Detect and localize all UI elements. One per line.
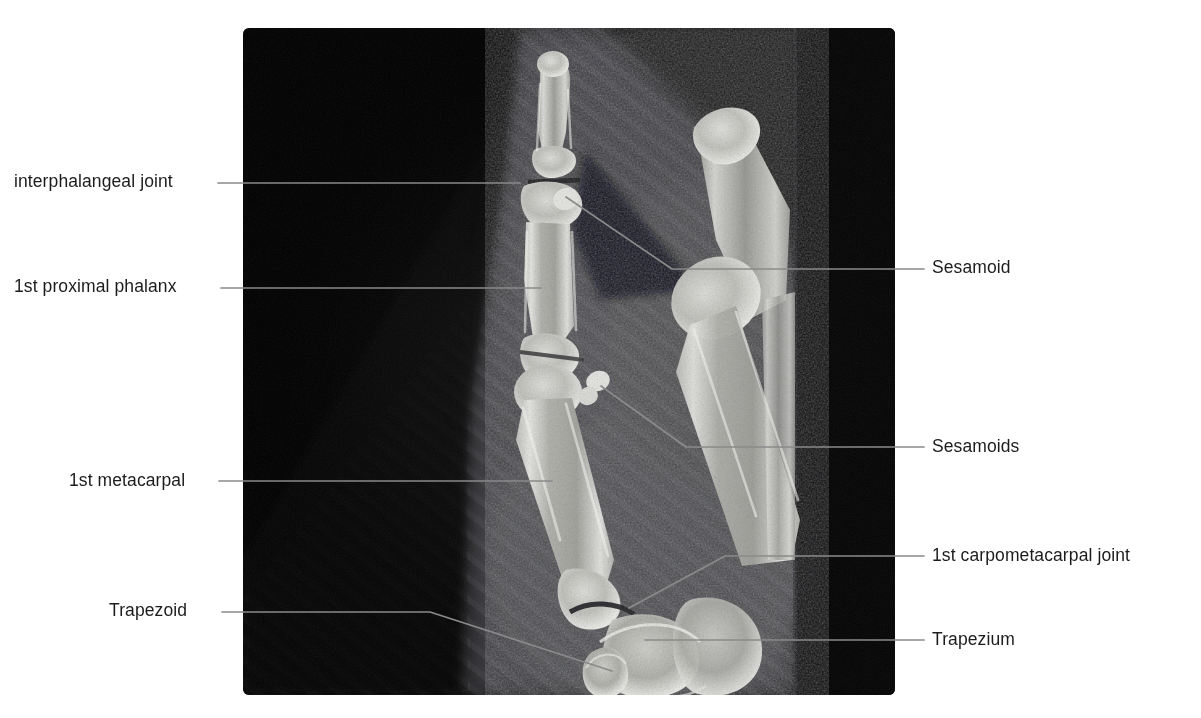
leader-first-carpometacarpal-joint: [629, 556, 924, 608]
label-first-carpometacarpal-joint: 1st carpometacarpal joint: [932, 546, 1130, 565]
leader-trapezoid: [222, 612, 612, 671]
label-first-metacarpal: 1st metacarpal: [69, 471, 185, 490]
label-sesamoids: Sesamoids: [932, 437, 1019, 456]
label-sesamoid: Sesamoid: [932, 258, 1011, 277]
label-trapezoid: Trapezoid: [109, 601, 187, 620]
annotated-xray-figure: interphalangeal joint 1st proximal phala…: [0, 0, 1201, 718]
leader-sesamoid: [566, 197, 924, 269]
label-first-proximal-phalanx: 1st proximal phalanx: [14, 277, 177, 296]
label-interphalangeal-joint: interphalangeal joint: [14, 172, 173, 191]
leader-sesamoids: [601, 386, 924, 447]
label-trapezium: Trapezium: [932, 630, 1015, 649]
